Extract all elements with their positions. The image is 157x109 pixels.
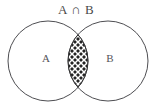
diagram-title-right-set: B (85, 2, 94, 17)
venn-diagram-canvas: A ∩ B A B (0, 0, 157, 109)
venn-diagram-figure: A ∩ B A B (0, 0, 157, 109)
set-a-label: A (42, 52, 50, 64)
intersection-operator-symbol: ∩ (71, 2, 81, 17)
diagram-title-left-set: A (58, 2, 68, 17)
set-b-label: B (106, 52, 113, 64)
